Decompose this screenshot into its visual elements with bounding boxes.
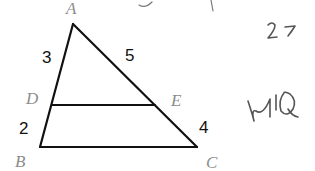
vertex-label-e: E xyxy=(170,91,182,110)
triangle-diagram: A D E B C 3 5 2 4 xyxy=(0,0,315,171)
vertex-label-b: B xyxy=(15,152,26,171)
length-label-db: 2 xyxy=(19,119,28,138)
length-label-ae: 5 xyxy=(125,46,134,65)
length-label-ec: 4 xyxy=(199,118,208,137)
handwriting-note-27 xyxy=(268,23,295,38)
handwriting-mark-curve xyxy=(139,2,152,6)
handwriting-note-niq xyxy=(248,92,298,121)
side-ac xyxy=(73,24,197,147)
handwriting-mark-tick xyxy=(211,0,213,11)
side-ab xyxy=(40,24,73,147)
length-label-ad: 3 xyxy=(42,48,51,67)
vertex-label-a: A xyxy=(65,0,77,18)
vertex-label-c: C xyxy=(206,153,218,171)
vertex-label-d: D xyxy=(25,89,39,108)
